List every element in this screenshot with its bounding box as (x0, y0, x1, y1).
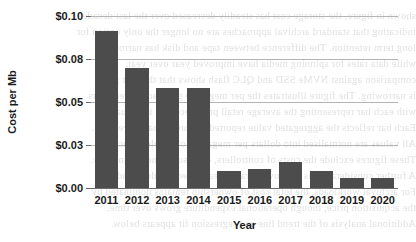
bar-group: 2017 (275, 16, 306, 188)
y-axis-title: Cost per Mb (6, 70, 18, 134)
x-axis-tick-label: 2016 (248, 194, 272, 206)
x-axis-tick-label: 2015 (217, 194, 241, 206)
bar-group: 2019 (337, 16, 368, 188)
bar (156, 88, 179, 188)
bar (125, 68, 148, 188)
x-axis-tick-label: 2018 (309, 194, 333, 206)
bar (279, 162, 302, 188)
x-axis-tick-label: 2017 (278, 194, 302, 206)
gridline (91, 188, 398, 189)
x-axis-tick-label: 2011 (94, 194, 118, 206)
bar-group: 2012 (122, 16, 153, 188)
bar-group: 2016 (245, 16, 276, 188)
bar (217, 171, 240, 188)
y-axis-tick-label: $0.08 (55, 53, 83, 65)
bar (248, 169, 271, 188)
x-axis-tick-label: 2014 (186, 194, 210, 206)
y-axis-tickmark (86, 188, 91, 189)
x-axis-tick-label: 2013 (155, 194, 179, 206)
bar (371, 178, 394, 188)
bar (187, 88, 210, 188)
bar (340, 178, 363, 188)
y-axis-tick-label: $0.03 (55, 139, 83, 151)
bar-series: 2011201220132014201520162017201820192020 (91, 16, 398, 188)
bar-group: 2020 (367, 16, 398, 188)
y-axis-tick-label: $0.00 (55, 182, 83, 194)
bar-group: 2013 (152, 16, 183, 188)
bar-group: 2014 (183, 16, 214, 188)
bar-chart: Cost per Mb $0.10$0.08$0.05$0.03$0.00 20… (0, 0, 416, 242)
plot-area: $0.10$0.08$0.05$0.03$0.00 20112012201320… (91, 16, 398, 188)
y-axis-tick-label: $0.05 (55, 96, 83, 108)
y-axis-tick-label: $0.10 (55, 10, 83, 22)
x-axis-tick-label: 2019 (340, 194, 364, 206)
bar-group: 2015 (214, 16, 245, 188)
bar-group: 2018 (306, 16, 337, 188)
bar (310, 171, 333, 188)
x-axis-tick-label: 2020 (370, 194, 394, 206)
x-axis-title: Year (91, 219, 398, 231)
bar-group: 2011 (91, 16, 122, 188)
x-axis-tick-label: 2012 (125, 194, 149, 206)
bar (95, 31, 118, 188)
